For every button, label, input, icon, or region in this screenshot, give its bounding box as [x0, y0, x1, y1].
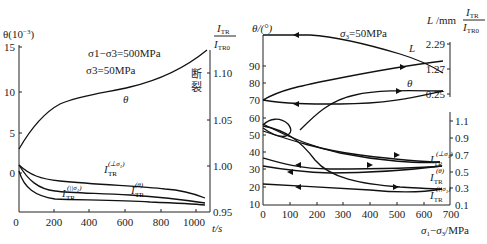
y-tick-label: 10	[4, 86, 16, 98]
svg-text:300: 300	[335, 208, 352, 220]
svg-text:(θ): (θ)	[436, 167, 445, 175]
par-curve-label: ITR (||σ1)	[429, 185, 451, 204]
I-axis-label: ITR ITR0	[462, 6, 485, 35]
right-chart: 90 80 70 60 50 40 30 20 10 0 100 200 300…	[249, 6, 485, 238]
svg-text:60: 60	[249, 112, 261, 124]
direction-arrows	[287, 32, 406, 190]
x-axis-label: σ1−σ3/MPa	[421, 224, 469, 238]
svg-text:(||σ1): (||σ1)	[67, 184, 82, 193]
right-y-axis-label: θ/(°)	[252, 22, 273, 35]
svg-text:100: 100	[282, 208, 299, 220]
svg-text:600: 600	[416, 208, 433, 220]
x-axis-label: t/s	[212, 222, 222, 234]
svg-text:(||σ1): (||σ1)	[436, 185, 451, 194]
right-tick-label: 1.05	[213, 114, 233, 126]
x-tick-label: 200	[46, 216, 63, 228]
svg-text:70: 70	[249, 94, 261, 106]
left-x-ticks: 0 200 400 600 800 1000 t/s	[13, 209, 222, 234]
left-y-axis-label: θ(10−3)	[3, 28, 34, 41]
y-tick-label: 5	[10, 127, 16, 139]
left-right-ticks: 1.10 1.05 1.00 0.95	[207, 67, 233, 218]
svg-text:(θ): (θ)	[135, 181, 144, 189]
svg-text:90: 90	[249, 60, 261, 72]
stress-difference-annotation: σ1−σ3=500MPa	[88, 47, 161, 59]
svg-text:0.1: 0.1	[455, 199, 469, 211]
figure: 15 10 5 0 0 200 400 600 800 1000 t/s 1.1…	[0, 0, 487, 244]
svg-text:80: 80	[249, 77, 261, 89]
confining-pressure-annotation: σ3=50MPa	[86, 64, 136, 76]
confining-pressure-annotation: σ3=50MPa	[340, 27, 387, 41]
svg-text:0.9: 0.9	[455, 132, 469, 144]
svg-text:TR: TR	[66, 194, 75, 202]
x-tick-label: 400	[81, 216, 98, 228]
I-axis-ticks: 1.1 0.9 0.7 0.5 0.3 0.1	[450, 115, 469, 211]
svg-text:0.5: 0.5	[455, 166, 469, 178]
x-tick-label: 600	[117, 216, 134, 228]
y-tick-label: 0	[10, 167, 16, 179]
svg-text:ITR0: ITR0	[213, 38, 231, 52]
L-load-curve	[263, 61, 443, 100]
svg-text:0.7: 0.7	[455, 149, 469, 161]
theta-I-curve-label: I TR (θ)	[130, 181, 144, 199]
svg-text:TR: TR	[108, 170, 117, 178]
svg-text:50: 50	[249, 129, 261, 141]
y-tick-label: 15	[4, 41, 16, 53]
svg-text:400: 400	[362, 208, 379, 220]
right-y-ticks: 90 80 70 60 50 40 30 20 10	[249, 60, 266, 210]
svg-text:ITR: ITR	[465, 6, 479, 20]
theta-curve-label: θ	[407, 77, 413, 89]
svg-text:40: 40	[249, 146, 261, 158]
x-tick-label: 0	[13, 216, 19, 228]
perp-curve-label: I TR (⊥σ1)	[103, 160, 125, 178]
right-x-ticks: 0 100 200 300 400 500 600 700 σ1−σ3/MPa	[260, 202, 469, 238]
fracture-label: 断	[191, 67, 202, 80]
fracture-label: 裂	[191, 81, 202, 93]
L-curve-label: L	[408, 42, 415, 54]
svg-text:20: 20	[249, 181, 261, 193]
svg-text:0: 0	[260, 208, 266, 220]
svg-text:0.3: 0.3	[455, 182, 469, 194]
right-tick-label: 1.00	[213, 160, 233, 172]
x-tick-label: 800	[153, 216, 170, 228]
theta-unload-curve	[263, 91, 443, 104]
left-right-axis-label: ITR ITR0	[213, 22, 236, 52]
x-tick-label: 1000	[183, 216, 206, 228]
theta-I-curve-label: ITR (θ)	[429, 167, 445, 186]
svg-text:(⊥σ1): (⊥σ1)	[108, 160, 125, 169]
perp-unload-curve	[263, 124, 440, 163]
svg-text:10: 10	[249, 198, 261, 210]
left-chart: 15 10 5 0 0 200 400 600 800 1000 t/s 1.1…	[3, 22, 236, 234]
theta-load-curve	[300, 91, 443, 130]
svg-text:TR: TR	[135, 191, 144, 199]
svg-text:500: 500	[389, 208, 406, 220]
right-tick-label: 1.10	[213, 67, 233, 79]
svg-text:ITR: ITR	[216, 22, 230, 36]
svg-text:1.1: 1.1	[455, 115, 469, 127]
theta-curve-label: θ	[123, 93, 129, 105]
svg-text:2.29: 2.29	[426, 38, 446, 50]
right-tick-label: 0.95	[213, 206, 233, 218]
L-axis-label: L /mm	[426, 14, 456, 26]
par-load-curve	[263, 126, 442, 189]
svg-text:ITR0: ITR0	[462, 21, 480, 35]
theta-I-load-curve	[263, 158, 442, 169]
svg-text:(⊥σ1): (⊥σ1)	[436, 150, 453, 159]
L-unload-curve	[263, 35, 443, 73]
svg-text:200: 200	[309, 208, 326, 220]
svg-text:30: 30	[249, 163, 261, 175]
